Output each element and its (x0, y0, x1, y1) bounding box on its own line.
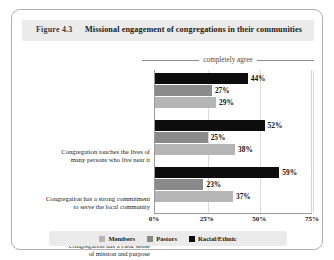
x-axis-line (154, 213, 312, 214)
category-label-1-line-1: to serve the local community (73, 203, 150, 210)
legend-label: Pastors (156, 235, 177, 242)
bar-row: 52% (155, 120, 311, 131)
bar-value-label: 52% (268, 120, 283, 131)
x-tick-label-3: 75% (305, 215, 319, 223)
figure-title: Missional engagement of congregations in… (85, 25, 302, 34)
bar-racial-ethnic-0 (155, 73, 248, 84)
bar-racial-ethnic-1 (155, 120, 265, 131)
bar-row: 37% (155, 191, 311, 202)
completely-agree-header: completely agree (142, 54, 314, 66)
bar-value-label: 25% (211, 132, 226, 143)
bar-value-label: 44% (251, 73, 266, 84)
legend-label: Racial/Ethnic (198, 235, 236, 242)
rule-left (142, 60, 199, 61)
category-label-0-line-0: Congregation touches the lives of (61, 148, 150, 155)
bar-row: 44% (155, 73, 311, 84)
legend-item-racial-ethnic[interactable]: Racial/Ethnic (189, 235, 236, 242)
legend-swatch-icon (147, 236, 153, 242)
bar-members-2 (155, 191, 233, 202)
bar-value-label: 27% (215, 85, 230, 96)
legend-item-pastors[interactable]: Pastors (147, 235, 177, 242)
bar-members-0 (155, 97, 216, 108)
bar-row: 59% (155, 167, 311, 178)
figure-card: Figure 4.3 Missional engagement of congr… (11, 9, 323, 250)
bar-group-2: 59%23%37% (155, 167, 311, 205)
bar-value-label: 37% (236, 191, 251, 202)
category-label-group: Congregation touches the lives of many p… (34, 70, 150, 213)
bar-group-0: 44%27%29% (155, 73, 311, 111)
figure-title-band: Figure 4.3 Missional engagement of congr… (22, 20, 314, 41)
bar-members-1 (155, 144, 235, 155)
bar-pastors-1 (155, 132, 208, 143)
bar-row: 25% (155, 132, 311, 143)
bar-row: 38% (155, 144, 311, 155)
legend-swatch-icon (99, 236, 105, 242)
gridline-75 (313, 70, 314, 213)
category-label-0: Congregation touches the lives of many p… (42, 148, 150, 165)
figure-number: Figure 4.3 (36, 25, 73, 34)
bar-row: 23% (155, 179, 311, 190)
bar-racial-ethnic-2 (155, 167, 279, 178)
plot-area: 44%27%29%52%25%38%59%23%37% (154, 70, 312, 213)
category-label-0-line-1: many persons who live near it (71, 156, 150, 163)
chart-legend: MembersPastorsRacial/Ethnic (49, 231, 287, 246)
bar-value-label: 59% (282, 167, 297, 178)
rule-right (257, 60, 314, 61)
bar-value-label: 38% (238, 144, 253, 155)
bar-value-label: 23% (206, 179, 221, 190)
category-label-1: Congregation has a strong commitment to … (42, 195, 150, 212)
x-tick-label-2: 50% (252, 215, 266, 223)
category-label-2-line-1: of mission and purpose (89, 250, 150, 257)
x-tick-label-1: 25% (200, 215, 214, 223)
bar-value-label: 29% (219, 97, 234, 108)
category-label-1-line-0: Congregation has a strong commitment (46, 195, 150, 202)
bar-row: 29% (155, 97, 311, 108)
legend-label: Members (108, 235, 135, 242)
bar-pastors-0 (155, 85, 212, 96)
bar-row: 27% (155, 85, 311, 96)
bar-pastors-2 (155, 179, 203, 190)
legend-item-members[interactable]: Members (99, 235, 135, 242)
x-tick-label-0: 0% (149, 215, 160, 223)
legend-swatch-icon (189, 236, 195, 242)
completely-agree-label: completely agree (203, 56, 252, 64)
bar-group-1: 52%25%38% (155, 120, 311, 158)
